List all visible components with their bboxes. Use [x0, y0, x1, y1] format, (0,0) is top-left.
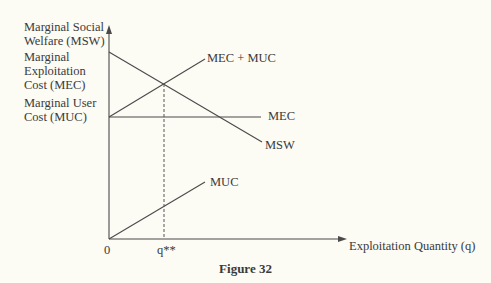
- muc-curve: [109, 182, 205, 239]
- y-label-mec: Marginal Exploitation Cost (MEC): [24, 50, 86, 92]
- y-axis-arrow-icon: [106, 25, 112, 34]
- origin-label: 0: [104, 243, 110, 257]
- y-label-msw-line2: Welfare (MSW): [24, 34, 105, 48]
- y-label-mec-line1: Marginal: [24, 50, 86, 64]
- msw-curve: [109, 52, 262, 142]
- figure-diagram: Marginal Social Welfare (MSW) Marginal E…: [0, 0, 491, 283]
- label-mec-plus-muc: MEC + MUC: [207, 51, 276, 65]
- label-msw: MSW: [265, 138, 295, 152]
- y-label-mec-line3: Cost (MEC): [24, 78, 86, 92]
- label-muc: MUC: [210, 175, 238, 189]
- y-label-muc-line1: Marginal User: [24, 96, 96, 110]
- x-axis-label: Exploitation Quantity (q): [349, 239, 475, 253]
- y-label-msw-line1: Marginal Social: [24, 20, 105, 34]
- y-label-msw: Marginal Social Welfare (MSW): [24, 20, 105, 48]
- y-label-muc: Marginal User Cost (MUC): [24, 96, 96, 124]
- optimum-quantity-label: q**: [157, 243, 176, 257]
- mec-plus-muc-curve: [109, 59, 205, 117]
- y-label-muc-line2: Cost (MUC): [24, 110, 96, 124]
- label-mec: MEC: [268, 109, 295, 123]
- figure-caption: Figure 32: [0, 261, 491, 277]
- y-label-mec-line2: Exploitation: [24, 64, 86, 78]
- x-axis-arrow-icon: [338, 236, 347, 242]
